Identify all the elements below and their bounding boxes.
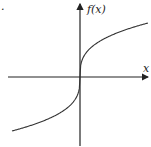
x-axis-label: x: [143, 62, 150, 75]
function-graph: f(x) x .: [0, 0, 151, 147]
y-axis-label: f(x): [86, 3, 106, 16]
stray-dot: .: [1, 0, 5, 13]
